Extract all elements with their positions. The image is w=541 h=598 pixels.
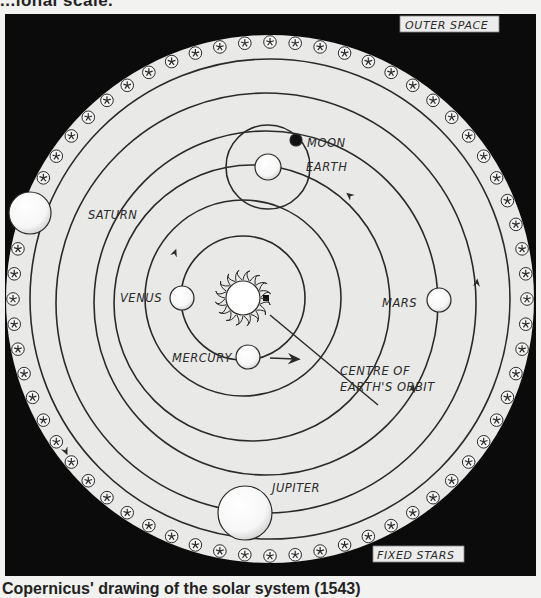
fixed-star-icon bbox=[521, 293, 534, 306]
fixed-star-icon bbox=[264, 36, 277, 49]
fixed-star-icon bbox=[101, 491, 114, 504]
fixed-star-icon bbox=[519, 318, 532, 331]
fixed-star-icon bbox=[362, 55, 375, 68]
fixed-star-icon bbox=[516, 243, 529, 256]
fixed-star-icon bbox=[445, 111, 458, 124]
fixed-star-icon bbox=[519, 268, 532, 281]
outer-space-label: OUTER SPACE bbox=[405, 19, 488, 32]
centre-annotation-line1: CENTRE OF bbox=[340, 364, 410, 378]
fixed-star-icon bbox=[165, 530, 178, 543]
fixed-star-icon bbox=[82, 111, 95, 124]
mars-planet-icon bbox=[427, 288, 451, 312]
fixed-star-icon bbox=[12, 243, 25, 256]
fixed-star-icon bbox=[239, 548, 252, 561]
fixed-star-icon bbox=[121, 506, 134, 519]
fixed-star-icon bbox=[37, 172, 50, 185]
fixed-star-icon bbox=[314, 41, 327, 54]
fixed-star-icon bbox=[406, 506, 419, 519]
fixed-star-icon bbox=[101, 94, 114, 107]
venus-planet-icon bbox=[170, 286, 194, 310]
mercury-label: MERCURY bbox=[172, 351, 233, 365]
fixed-star-icon bbox=[427, 491, 440, 504]
fixed-star-icon bbox=[65, 456, 78, 469]
fixed-star-icon bbox=[7, 293, 20, 306]
fixed-star-icon bbox=[338, 47, 351, 60]
saturn-planet-icon bbox=[9, 192, 51, 234]
fixed-star-icon bbox=[264, 550, 277, 563]
fixed-star-icon bbox=[82, 474, 95, 487]
fixed-star-icon bbox=[477, 150, 490, 163]
fixed-star-icon bbox=[338, 539, 351, 552]
fixed-star-icon bbox=[143, 519, 156, 532]
mercury-arrow bbox=[270, 358, 295, 359]
saturn-label: SATURN bbox=[88, 208, 137, 222]
fixed-star-icon bbox=[406, 79, 419, 92]
mars-label: MARS bbox=[382, 296, 417, 310]
fixed-star-icon bbox=[289, 37, 302, 50]
fixed-star-icon bbox=[510, 218, 523, 231]
fixed-star-icon bbox=[289, 548, 302, 561]
fixed-star-icon bbox=[121, 79, 134, 92]
fixed-star-icon bbox=[8, 268, 21, 281]
sun-icon bbox=[226, 281, 260, 315]
fixed-star-icon bbox=[445, 474, 458, 487]
moon-label: MOON bbox=[307, 136, 346, 150]
fixed-star-icon bbox=[490, 172, 503, 185]
fixed-star-icon bbox=[385, 519, 398, 532]
fixed-star-icon bbox=[143, 66, 156, 79]
fixed-star-icon bbox=[314, 545, 327, 558]
fixed-star-icon bbox=[510, 367, 523, 380]
earth-label: EARTH bbox=[306, 160, 347, 174]
fixed-star-icon bbox=[50, 435, 63, 448]
fixed-star-icon bbox=[477, 435, 490, 448]
figure-caption: Copernicus' drawing of the solar system … bbox=[2, 580, 361, 598]
venus-label: VENUS bbox=[120, 291, 162, 305]
mercury-planet-icon bbox=[236, 345, 260, 369]
fixed-star-icon bbox=[462, 456, 475, 469]
fixed-star-icon bbox=[37, 414, 50, 427]
fixed-star-icon bbox=[165, 55, 178, 68]
fixed-star-icon bbox=[214, 545, 227, 558]
fixed-star-icon bbox=[65, 130, 78, 143]
fixed-star-icon bbox=[490, 414, 503, 427]
fixed-star-icon bbox=[501, 391, 514, 404]
moon-icon bbox=[290, 134, 302, 146]
fixed-star-icon bbox=[462, 130, 475, 143]
fixed-star-icon bbox=[516, 343, 529, 356]
fixed-star-icon bbox=[50, 150, 63, 163]
fixed-star-icon bbox=[427, 94, 440, 107]
fixed-star-icon bbox=[501, 194, 514, 207]
fixed-stars-label: FIXED STARS bbox=[377, 549, 454, 562]
fixed-star-icon bbox=[26, 391, 39, 404]
fixed-star-icon bbox=[214, 41, 227, 54]
fixed-star-icon bbox=[12, 343, 25, 356]
earth-planet-icon bbox=[255, 154, 281, 180]
fixed-star-icon bbox=[362, 530, 375, 543]
fixed-star-icon bbox=[189, 539, 202, 552]
jupiter-planet-icon bbox=[218, 486, 272, 540]
fixed-star-icon bbox=[189, 47, 202, 60]
fixed-star-icon bbox=[239, 37, 252, 50]
centre-annotation-line2: EARTH'S ORBIT bbox=[340, 380, 435, 394]
fixed-star-icon bbox=[18, 367, 31, 380]
fixed-star-icon bbox=[8, 318, 21, 331]
jupiter-label: JUPITER bbox=[270, 481, 320, 495]
fixed-star-icon bbox=[385, 66, 398, 79]
